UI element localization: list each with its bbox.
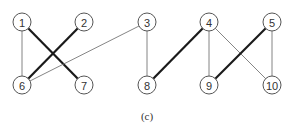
node-label: 8 xyxy=(144,80,150,92)
node-label: 10 xyxy=(266,80,278,92)
node-3: 3 xyxy=(138,13,156,31)
node-label: 2 xyxy=(81,17,87,29)
node-2: 2 xyxy=(75,13,93,31)
node-label: 3 xyxy=(144,17,150,29)
node-9: 9 xyxy=(200,76,218,94)
node-label: 9 xyxy=(206,80,212,92)
node-label: 4 xyxy=(206,17,212,29)
node-4: 4 xyxy=(200,13,218,31)
node-1: 1 xyxy=(13,13,31,31)
node-5: 5 xyxy=(263,13,281,31)
node-6: 6 xyxy=(13,76,31,94)
figure-caption: (c) xyxy=(0,110,294,122)
node-label: 7 xyxy=(81,80,87,92)
node-8: 8 xyxy=(138,76,156,94)
node-label: 6 xyxy=(19,80,25,92)
node-7: 7 xyxy=(75,76,93,94)
node-label: 5 xyxy=(269,17,275,29)
graph-canvas: 12345678910 xyxy=(0,0,294,110)
edge-4-8 xyxy=(147,22,209,85)
node-label: 1 xyxy=(19,17,25,29)
node-10: 10 xyxy=(263,76,281,94)
